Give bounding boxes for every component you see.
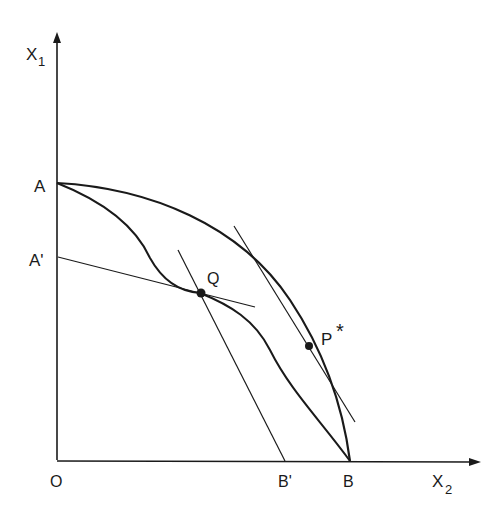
axes — [53, 32, 481, 466]
point-p-star — [305, 342, 313, 350]
label-a-prime: A' — [29, 251, 44, 270]
label-a: A — [34, 177, 46, 196]
inner-frontier-curve — [57, 183, 350, 461]
x-axis-label-subscript: 2 — [445, 482, 452, 497]
outer-frontier-curve — [57, 183, 350, 461]
label-b: B — [343, 473, 354, 490]
label-origin: O — [50, 473, 62, 490]
label-p-star-asterisk: * — [336, 320, 344, 342]
label-q: Q — [207, 270, 219, 287]
y-axis-arrow-icon — [53, 32, 61, 43]
diagram-canvas: X 1 A A' Q P * O B' B X 2 — [0, 0, 502, 511]
point-q — [197, 289, 206, 298]
label-p-star: P — [321, 330, 332, 349]
y-axis-label: X — [26, 45, 37, 64]
x-axis-label: X — [432, 472, 443, 491]
x-axis-arrow-icon — [469, 458, 481, 466]
price-line-a-prime — [58, 257, 255, 307]
label-b-prime: B' — [278, 473, 292, 490]
y-axis-label-subscript: 1 — [38, 54, 45, 69]
x-axis — [57, 461, 472, 462]
